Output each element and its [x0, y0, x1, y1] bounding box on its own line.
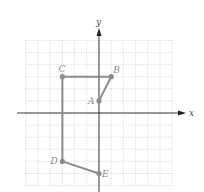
x-axis-label: x: [189, 108, 194, 118]
point-label-a: A: [87, 96, 95, 106]
point-label-b: B: [112, 65, 120, 75]
y-axis-label: y: [95, 17, 102, 27]
point-e: [96, 171, 101, 176]
point-c: [60, 74, 65, 79]
point-label-d: D: [49, 156, 57, 166]
point-d: [60, 159, 65, 164]
point-label-e: E: [101, 169, 109, 179]
axes: x y: [17, 17, 194, 192]
point-b: [109, 74, 114, 79]
x-axis-arrow-icon: [178, 111, 186, 116]
y-axis-arrow-icon: [97, 28, 102, 36]
coordinate-plane: x y ABCDE: [0, 0, 204, 192]
point-a: [96, 98, 101, 103]
point-label-c: C: [58, 64, 65, 74]
